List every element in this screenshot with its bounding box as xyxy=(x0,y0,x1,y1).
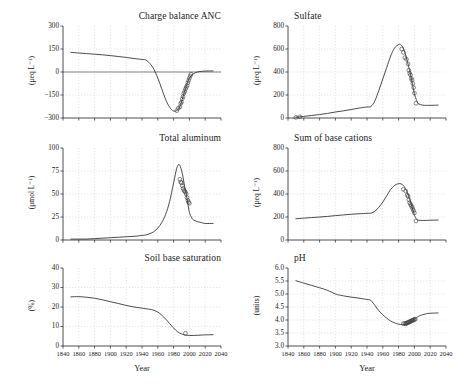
observation-marker xyxy=(405,321,409,325)
observation-marker xyxy=(401,322,405,326)
observation-marker xyxy=(413,317,417,321)
y-tick-label: 400 xyxy=(254,190,284,198)
y-tick-label: 4.0 xyxy=(254,316,284,324)
observation-marker xyxy=(294,116,298,120)
observation-marker xyxy=(413,318,417,322)
observation-marker xyxy=(403,321,407,325)
y-tick-label: 400 xyxy=(254,68,284,76)
observation-marker xyxy=(184,190,188,194)
observation-marker xyxy=(184,85,188,89)
y-tick-label: 4.5 xyxy=(254,303,284,311)
y-tick-label: 25 xyxy=(29,213,59,221)
observation-marker xyxy=(298,115,302,119)
plot-canvas-ph xyxy=(0,0,476,386)
y-tick-label: 3.5 xyxy=(254,329,284,337)
observation-marker xyxy=(407,68,411,72)
y-tick-label: 0 xyxy=(254,114,284,122)
observation-marker xyxy=(406,194,410,198)
y-tick-label: 600 xyxy=(254,167,284,175)
y-tick-label: 0 xyxy=(254,236,284,244)
y-tick-label: 20 xyxy=(29,303,59,311)
y-tick-label: 300 xyxy=(29,22,59,30)
observation-marker xyxy=(414,219,418,223)
model-curve-sum-of-base-cations xyxy=(296,184,438,221)
observation-marker xyxy=(182,92,186,96)
model-curve-soil-base-saturation xyxy=(71,297,213,336)
observation-marker xyxy=(408,320,412,324)
observation-marker xyxy=(407,320,411,324)
y-tick-label: 75 xyxy=(29,167,59,175)
observation-marker xyxy=(408,71,412,75)
model-curve-sulfate xyxy=(296,44,438,117)
y-tick-label: 0 xyxy=(29,236,59,244)
observation-marker xyxy=(405,57,409,61)
observation-marker xyxy=(180,97,184,101)
plot-canvas-sulfate xyxy=(0,0,476,386)
observation-marker xyxy=(182,188,186,192)
observation-marker xyxy=(181,187,185,191)
observation-marker xyxy=(408,201,412,205)
observation-marker xyxy=(179,102,183,106)
plot-canvas-charge-balance-anc xyxy=(0,0,476,386)
observation-marker xyxy=(175,109,179,113)
observation-marker xyxy=(409,204,413,208)
y-tick-label: 150 xyxy=(29,45,59,53)
x-axis-label-ph: Year xyxy=(288,363,446,373)
observation-marker xyxy=(409,202,413,206)
model-curve-total-aluminum xyxy=(71,165,213,240)
y-tick-label: 600 xyxy=(254,45,284,53)
panel-title-sum-of-base-cations: Sum of base cations xyxy=(294,133,372,143)
observation-marker xyxy=(184,87,188,91)
panel-title-sulfate: Sulfate xyxy=(294,11,322,21)
x-tick-label: 2040 xyxy=(209,350,233,357)
observation-marker xyxy=(181,95,185,99)
y-tick-label: 3.0 xyxy=(254,342,284,350)
observation-marker xyxy=(401,51,405,55)
y-tick-label: 40 xyxy=(29,264,59,272)
x-axis-label-soil-base-saturation: Year xyxy=(63,363,221,373)
observation-marker xyxy=(405,193,409,197)
observation-marker xyxy=(410,205,414,209)
y-tick-label: 200 xyxy=(254,213,284,221)
y-tick-label: 0 xyxy=(29,342,59,350)
observation-marker xyxy=(176,106,180,110)
observation-marker xyxy=(414,101,418,105)
observation-marker xyxy=(185,84,189,88)
observation-marker xyxy=(183,90,187,94)
observation-marker xyxy=(180,100,184,104)
plot-canvas-soil-base-saturation xyxy=(0,0,476,386)
plot-canvas-sum-of-base-cations xyxy=(0,0,476,386)
y-tick-label: 0 xyxy=(29,68,59,76)
observation-marker xyxy=(403,56,407,60)
y-tick-label: −300 xyxy=(29,114,59,122)
observation-marker xyxy=(186,81,190,85)
observation-marker xyxy=(184,192,188,196)
observation-marker xyxy=(180,181,184,185)
y-tick-label: 6.0 xyxy=(254,264,284,272)
observation-marker xyxy=(187,79,191,83)
observation-marker xyxy=(186,199,190,203)
y-tick-label: 50 xyxy=(29,190,59,198)
observation-marker xyxy=(404,322,408,326)
panel-title-soil-base-saturation: Soil base saturation xyxy=(145,253,221,263)
observation-marker xyxy=(412,318,416,322)
observation-marker xyxy=(183,189,187,193)
observation-marker xyxy=(411,318,415,322)
y-tick-label: 10 xyxy=(29,322,59,330)
model-curve-ph xyxy=(296,281,438,325)
observation-marker xyxy=(189,72,193,76)
y-tick-label: 30 xyxy=(29,283,59,291)
model-curve-charge-balance-anc xyxy=(71,52,213,111)
observation-marker xyxy=(185,196,189,200)
observation-marker xyxy=(406,321,410,325)
observation-marker xyxy=(406,62,410,66)
observation-marker xyxy=(404,189,408,193)
observation-marker xyxy=(409,76,413,80)
observation-marker xyxy=(188,76,192,80)
observation-marker xyxy=(411,82,415,86)
observation-marker xyxy=(178,177,182,181)
observation-marker xyxy=(188,201,192,205)
y-tick-label: 200 xyxy=(254,91,284,99)
plot-canvas-total-aluminum xyxy=(0,0,476,386)
observation-marker xyxy=(409,319,413,323)
